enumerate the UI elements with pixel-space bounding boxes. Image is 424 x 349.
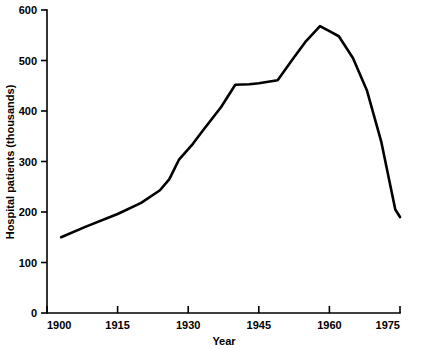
chart-container: Hospital patients (thousands) Year 01002… (0, 0, 424, 349)
y-tick-label: 300 (19, 156, 37, 168)
y-axis-ticks: 0100200300400500600 (19, 4, 47, 319)
data-series-line (61, 26, 400, 237)
x-axis-title: Year (212, 335, 236, 347)
x-tick-label: 1945 (247, 319, 271, 331)
x-tick-label: 1915 (105, 319, 129, 331)
x-tick-label: 1900 (47, 319, 71, 331)
y-tick-label: 0 (31, 307, 37, 319)
x-tick-label: 1975 (376, 319, 400, 331)
x-tick-label: 1930 (176, 319, 200, 331)
y-tick-label: 600 (19, 4, 37, 16)
x-tick-label: 1960 (317, 319, 341, 331)
line-chart: Hospital patients (thousands) Year 01002… (0, 0, 424, 349)
y-axis-title: Hospital patients (thousands) (4, 84, 16, 239)
x-axis-ticks: 190019151930194519601975 (47, 306, 400, 331)
y-tick-label: 400 (19, 105, 37, 117)
y-tick-label: 200 (19, 206, 37, 218)
y-tick-label: 500 (19, 55, 37, 67)
y-tick-label: 100 (19, 257, 37, 269)
